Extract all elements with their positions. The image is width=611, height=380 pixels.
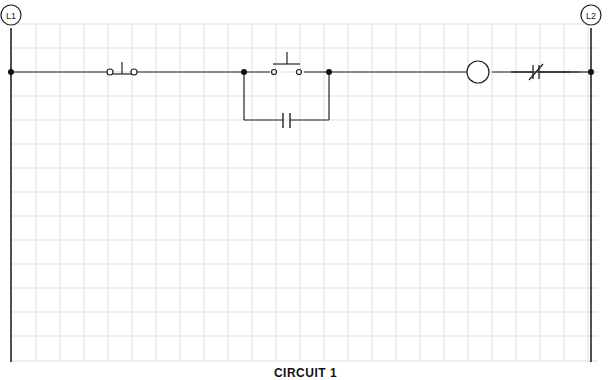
rail-label-l2-text: L2 bbox=[586, 11, 596, 21]
diagram-caption: CIRCUIT 1 bbox=[0, 366, 611, 380]
overload-contact-nc bbox=[511, 64, 580, 80]
rail-label-l2: L2 bbox=[581, 5, 601, 25]
rail-label-l1: L1 bbox=[1, 5, 21, 25]
motor-starter-coil bbox=[467, 61, 489, 83]
rail-label-l1-text: L1 bbox=[6, 11, 16, 21]
grid bbox=[12, 24, 598, 361]
